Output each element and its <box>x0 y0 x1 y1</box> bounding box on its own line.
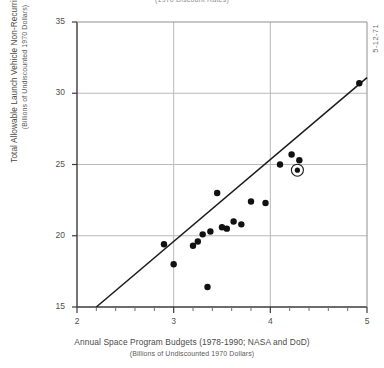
data-point <box>161 241 167 247</box>
data-point <box>262 200 268 206</box>
date-stamp: 5-12-71 <box>371 24 380 53</box>
regression-line <box>96 78 367 307</box>
y-tick-label: 35 <box>43 16 65 26</box>
data-point <box>207 228 213 234</box>
data-point <box>204 284 210 290</box>
scatter-plot-figure: (1970 Discount Rates) 5-12-71 Total Allo… <box>0 0 384 368</box>
x-axis-label-main: Annual Space Program Budgets (1978-1990;… <box>0 336 384 348</box>
x-tick-label: 5 <box>357 316 377 326</box>
data-point <box>170 261 176 267</box>
data-point <box>296 157 302 163</box>
data-point <box>195 238 201 244</box>
data-point <box>238 221 244 227</box>
x-tick-label: 3 <box>164 316 184 326</box>
x-axis-label: Annual Space Program Budgets (1978-1990;… <box>0 336 384 359</box>
y-tick-label: 15 <box>43 301 65 311</box>
y-axis-label-sub: (Billions of Undiscounted 1970 Dollars) <box>20 0 30 187</box>
data-point-highlighted <box>295 168 300 173</box>
y-axis-label: Total Allowable Launch Vehicle Non-Recur… <box>9 0 39 187</box>
data-point <box>224 225 230 231</box>
trend-line <box>96 78 367 307</box>
data-points <box>161 80 363 290</box>
y-axis-label-main: Total Allowable Launch Vehicle Non-Recur… <box>9 0 20 187</box>
y-tick-label: 20 <box>43 230 65 240</box>
data-point <box>277 161 283 167</box>
gridlines <box>77 22 367 307</box>
plot-canvas <box>0 0 384 368</box>
tick-marks <box>72 22 367 313</box>
x-tick-label: 2 <box>67 316 87 326</box>
data-point <box>356 80 362 86</box>
y-tick-label: 30 <box>43 87 65 97</box>
data-point <box>199 231 205 237</box>
data-point <box>190 243 196 249</box>
chart-top-note: (1970 Discount Rates) <box>0 0 384 3</box>
data-point <box>214 190 220 196</box>
x-axis-label-sub: (Billions of Undiscounted 1970 Dollars) <box>0 348 384 359</box>
data-point <box>248 198 254 204</box>
data-point <box>288 151 294 157</box>
x-tick-label: 4 <box>260 316 280 326</box>
y-tick-label: 25 <box>43 159 65 169</box>
data-point <box>230 218 236 224</box>
